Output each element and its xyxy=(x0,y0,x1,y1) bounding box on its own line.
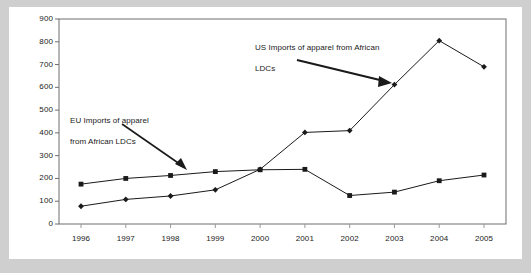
x-axis-tick-label: 1998 xyxy=(146,234,196,243)
data-point-marker xyxy=(302,167,307,172)
x-axis-tick-label: 1999 xyxy=(190,234,240,243)
us-annotation-line1: US Imports of apparel from African xyxy=(255,43,379,54)
us-series-annotation: US Imports of apparel from African LDCs xyxy=(255,32,379,85)
y-axis-tick-label: 800 xyxy=(17,37,53,46)
us-annotation-line2: LDCs xyxy=(255,64,379,75)
x-axis-tick-label: 1996 xyxy=(56,234,106,243)
y-axis-tick-label: 400 xyxy=(17,128,53,137)
data-point-marker xyxy=(347,193,352,198)
x-axis-tick-label: 2001 xyxy=(280,234,330,243)
y-axis-tick-label: 900 xyxy=(17,14,53,23)
chart-figure: EU Imports of apparel from African LDCs … xyxy=(9,7,522,259)
x-axis-tick-label: 2003 xyxy=(369,234,419,243)
data-point-marker xyxy=(123,176,128,181)
eu-annotation-line1: EU Imports of apparel xyxy=(70,116,149,127)
data-point-marker xyxy=(79,182,84,187)
y-axis-tick-label: 600 xyxy=(17,82,53,91)
data-point-marker xyxy=(392,190,397,195)
x-axis-tick-label: 1997 xyxy=(101,234,151,243)
y-axis-tick-label: 200 xyxy=(17,173,53,182)
eu-annotation-line2: from African LDCs xyxy=(70,137,149,148)
y-axis-tick-label: 100 xyxy=(17,196,53,205)
x-axis-tick-label: 2002 xyxy=(325,234,375,243)
x-axis-tick-label: 2005 xyxy=(459,234,509,243)
y-axis-tick-label: 0 xyxy=(17,219,53,228)
x-axis-tick-label: 2000 xyxy=(235,234,285,243)
eu-series-annotation: EU Imports of apparel from African LDCs xyxy=(70,105,149,158)
data-point-marker xyxy=(213,169,218,174)
y-axis-ticks xyxy=(55,19,59,224)
data-point-marker xyxy=(168,173,173,178)
data-point-marker xyxy=(482,173,487,178)
x-axis-ticks xyxy=(81,224,484,228)
x-axis-tick-label: 2004 xyxy=(414,234,464,243)
data-point-marker xyxy=(437,178,442,183)
figure-frame: EU Imports of apparel from African LDCs … xyxy=(0,0,531,273)
y-axis-tick-label: 300 xyxy=(17,151,53,160)
y-axis-tick-label: 700 xyxy=(17,60,53,69)
y-axis-tick-label: 500 xyxy=(17,105,53,114)
